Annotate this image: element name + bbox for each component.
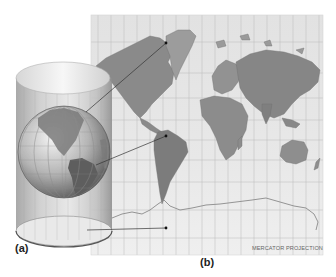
endpoint-greenland (165, 42, 168, 45)
cylinder-top (16, 62, 110, 94)
endpoint-antarctica (165, 227, 168, 230)
endpoint-south-america (165, 135, 168, 138)
cylinder-base (16, 216, 112, 246)
projection-label: MERCATOR PROJECTION (252, 245, 323, 251)
panel-a-label: (a) (15, 242, 28, 254)
mercator-diagram (0, 0, 336, 277)
panel-b-label: (b) (200, 256, 214, 268)
world-map (91, 15, 323, 255)
cylinder-with-globe (14, 62, 114, 247)
